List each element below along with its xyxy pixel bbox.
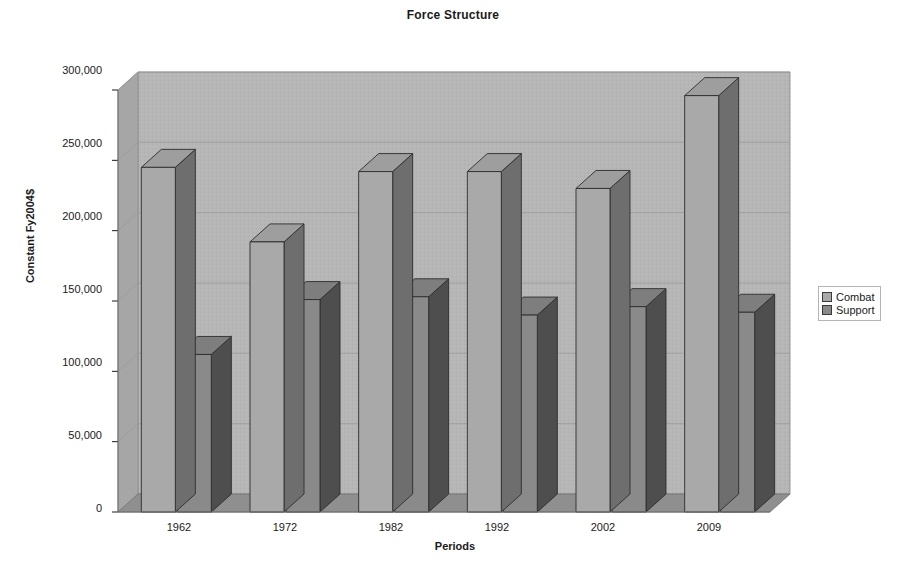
bar-front-face <box>685 96 719 512</box>
bar-side-face <box>646 289 666 512</box>
bar-combat-2002[interactable] <box>576 170 630 512</box>
legend-item-support[interactable]: Support <box>822 304 875 316</box>
bar-front-face <box>359 172 393 512</box>
bar-combat-1972[interactable] <box>250 224 304 512</box>
chart-container: Force Structure Constant Fy2004$ Periods… <box>0 0 906 568</box>
chart-legend: Combat Support <box>818 286 881 321</box>
bar-side-face <box>429 279 449 512</box>
legend-swatch-combat <box>822 292 832 302</box>
bar-front-face <box>141 167 175 512</box>
bar-front-face <box>576 188 610 512</box>
bar-combat-1992[interactable] <box>467 154 521 512</box>
bar-side-face <box>610 170 630 512</box>
bar-side-face <box>537 297 557 512</box>
bar-side-face <box>284 224 304 512</box>
bar-side-face <box>393 154 413 512</box>
bar-combat-1962[interactable] <box>141 149 195 512</box>
legend-swatch-support <box>822 305 832 315</box>
bar-side-face <box>755 294 775 512</box>
bar-side-face <box>719 78 739 512</box>
bar-side-face <box>211 336 231 512</box>
bar-combat-1982[interactable] <box>359 154 413 512</box>
chart-canvas <box>0 0 906 568</box>
legend-label-combat: Combat <box>836 291 875 303</box>
bar-front-face <box>467 172 501 512</box>
bar-side-face <box>175 149 195 512</box>
bar-side-face <box>320 282 340 512</box>
bar-combat-2009[interactable] <box>685 78 739 512</box>
legend-label-support: Support <box>836 304 875 316</box>
bar-side-face <box>501 154 521 512</box>
bar-front-face <box>250 242 284 512</box>
legend-item-combat[interactable]: Combat <box>822 291 875 303</box>
